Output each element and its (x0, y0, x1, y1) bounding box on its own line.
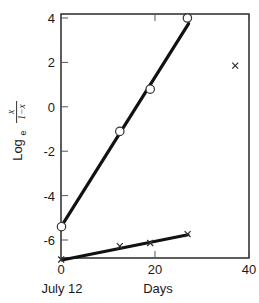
y-axis-tickmarks (61, 18, 68, 240)
y-axis-title-subscript: e (18, 130, 28, 135)
y-tick-label-1: 2 (48, 55, 55, 70)
x-tick-label-2: 40 (242, 262, 256, 277)
y-tick-label-4: -4 (43, 189, 55, 204)
plot-frame (61, 14, 249, 258)
y-axis-title-group: Log e (10, 130, 28, 160)
y-tick-label-0: 4 (48, 11, 55, 26)
lower-series-fit-line (62, 235, 188, 260)
y-axis-title-base: Log (10, 139, 25, 161)
fraction-numerator: x (6, 109, 16, 115)
chart-figure: 4 2 0 -2 -4 -6 0 20 40 Days July 12 Log … (0, 0, 259, 303)
upper-series-fit-line (61, 24, 189, 227)
data-point-circle (57, 223, 65, 231)
fraction-denominator: 1−x (17, 104, 27, 120)
y-axis-title-fraction: x 1−x (6, 101, 27, 123)
x-tick-label-1: 20 (148, 262, 162, 277)
isolated-cross-marker (232, 63, 238, 69)
data-point-circle (116, 127, 124, 135)
data-point-circle (183, 14, 191, 22)
x-axis-tickmarks (155, 14, 249, 258)
x-origin-annotation: July 12 (41, 281, 82, 296)
y-tick-label-5: -6 (43, 233, 55, 248)
logit-scatter-chart: 4 2 0 -2 -4 -6 0 20 40 Days July 12 Log … (0, 0, 259, 303)
x-axis-title: Days (143, 281, 173, 296)
y-tick-label-2: 0 (48, 100, 55, 115)
x-tick-label-0: 0 (57, 262, 64, 277)
y-tick-label-3: -2 (43, 144, 55, 159)
data-point-circle (146, 85, 154, 93)
